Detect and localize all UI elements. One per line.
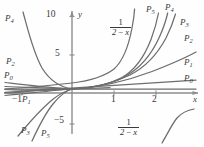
function-curves (5, 9, 194, 143)
plot-canvas (0, 0, 204, 147)
y-tick-label-neg5: −5 (54, 116, 64, 126)
curve-label-left-P1-sub: 1 (28, 98, 31, 105)
curve-P2 (5, 52, 196, 90)
function-label-upper-numerator: 1 (110, 18, 131, 27)
curve-label-left-P3-base: P (21, 125, 27, 135)
lower-den-right: x (133, 127, 137, 137)
curve-label-left-P3-sub: 3 (27, 129, 30, 136)
axis-group (4, 11, 198, 134)
curve-label-right-P4: P4 (165, 3, 174, 12)
y-axis-arrowhead (70, 11, 74, 17)
y-tick-label-10: 10 (46, 10, 56, 20)
curve-label-right-P4-base: P (165, 2, 171, 12)
curve-label-left-P2: P2 (6, 57, 15, 66)
curve-label-right-P2-base: P (184, 33, 190, 43)
function-label-upper: 1 2 − x (110, 18, 131, 37)
curve-label-left-P1: P1 (22, 95, 31, 104)
curve-label-left-P5-base: P (41, 128, 47, 138)
upper-den-right: x (125, 27, 129, 37)
curve-label-right-P0: P0 (184, 74, 193, 83)
x-tick-label-neg1: −1 (12, 95, 22, 105)
y-tick-label-5: 5 (55, 49, 60, 59)
curve-label-right-P1-base: P (184, 57, 190, 67)
curve-label-right-P5-sub: 5 (152, 8, 155, 15)
function-label-lower-denominator: 2 − x (118, 127, 139, 137)
curve-label-right-P2-sub: 2 (190, 37, 193, 44)
taylor-polynomial-figure: 10 5 −5 −1 1 2 y x 1 2 − x 1 2 − x P4 P2… (0, 0, 204, 147)
y-axis-label: y (78, 10, 82, 19)
curve-label-right-P3-base: P (180, 17, 186, 27)
curve-label-left-P0-sub: 0 (10, 74, 13, 81)
curve-label-left-P3: P3 (21, 126, 30, 135)
curve-label-right-P0-sub: 0 (190, 77, 193, 84)
curve-label-left-P0-base: P (4, 70, 10, 80)
curve-label-left-P1-base: P (22, 94, 28, 104)
curve-label-right-P1: P1 (184, 58, 193, 67)
curve-label-left-P0: P0 (4, 71, 13, 80)
curve-label-right-P5: P5 (146, 5, 155, 14)
lower-den-op: − (124, 127, 133, 137)
function-label-lower-numerator: 1 (118, 118, 139, 127)
curve-label-right-P4-sub: 4 (171, 6, 174, 13)
curve-label-left-P2-sub: 2 (12, 60, 15, 67)
curve-label-right-P3-sub: 3 (186, 21, 189, 28)
x-axis-label: x (193, 95, 197, 104)
x-tick-label-2: 2 (152, 95, 157, 105)
curve-label-left-P4: P4 (5, 14, 14, 23)
curve-label-right-P5-base: P (146, 4, 152, 14)
curve-label-left-P4-base: P (5, 13, 11, 23)
curve-label-left-P4-sub: 4 (11, 17, 14, 24)
curve-label-right-P1-sub: 1 (190, 61, 193, 68)
curve-label-right-P2: P2 (184, 34, 193, 43)
curve-label-left-P5-sub: 5 (47, 132, 50, 139)
curve-function-right-branch (162, 109, 194, 143)
curve-P5 (32, 13, 159, 141)
curve-label-left-P5: P5 (41, 129, 50, 138)
function-label-lower: 1 2 − x (118, 118, 139, 137)
curve-label-right-P0-base: P (184, 73, 190, 83)
function-label-upper-denominator: 2 − x (110, 27, 131, 37)
upper-den-op: − (116, 27, 125, 37)
curve-label-left-P2-base: P (6, 56, 12, 66)
curve-label-right-P3: P3 (180, 18, 189, 27)
x-tick-label-1: 1 (111, 95, 116, 105)
